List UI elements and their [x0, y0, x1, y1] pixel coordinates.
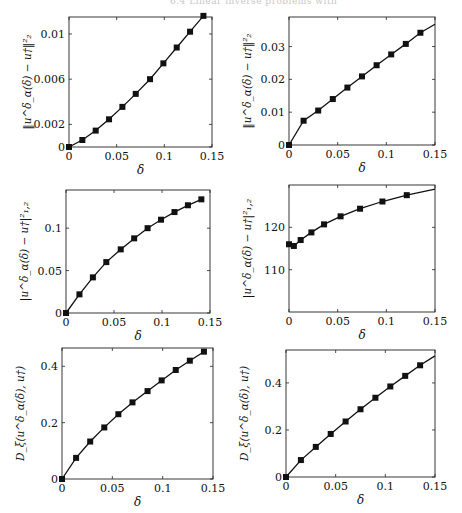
square-marker — [357, 206, 363, 212]
x-tick-label: 0.1 — [154, 482, 172, 495]
x-tick-label: 0.15 — [423, 480, 448, 493]
y-tick-label: 0.2 — [265, 424, 283, 437]
x-tick-label: 0.15 — [200, 150, 225, 163]
data-line — [66, 199, 201, 313]
square-marker — [145, 388, 151, 394]
square-marker — [298, 237, 304, 243]
square-marker — [283, 474, 289, 480]
y-tick-label: 0.4 — [41, 360, 59, 373]
square-marker — [173, 367, 179, 373]
subplot-p1: 00.050.10.1500.0020.0060.01δ‖u^δ_α(δ) − … — [21, 13, 224, 177]
square-marker — [343, 418, 349, 424]
data-line — [289, 24, 435, 145]
square-marker — [358, 406, 364, 412]
x-tick-label: 0.15 — [198, 316, 223, 329]
square-marker — [159, 377, 165, 383]
x-tick-label: 0.1 — [153, 316, 171, 329]
square-marker — [315, 108, 321, 114]
plot-frame — [69, 17, 212, 147]
x-tick-label: 0 — [286, 148, 293, 161]
square-marker — [103, 259, 109, 265]
square-marker — [90, 274, 96, 280]
x-tick-label: 0.05 — [323, 480, 348, 493]
x-axis-label: δ — [358, 328, 365, 342]
y-tick-label: 0 — [55, 307, 62, 320]
y-tick-label: 0.05 — [38, 265, 63, 278]
subplot-p2: 00.050.10.1500.010.020.03δ‖u^δ_α(δ) − u†… — [241, 17, 447, 175]
square-marker — [298, 457, 304, 463]
square-marker — [171, 209, 177, 215]
plot-frame — [289, 185, 435, 312]
square-marker — [372, 395, 378, 401]
figure-grid: 00.050.10.1500.0020.0060.01δ‖u^δ_α(δ) − … — [0, 0, 462, 513]
square-marker — [321, 221, 327, 227]
square-marker — [388, 51, 394, 57]
plot-frame — [66, 190, 210, 313]
subplot-p5: 00.050.10.1500.20.4δD_ξ(u^δ_α(δ), u†) — [14, 348, 225, 509]
square-marker — [131, 235, 137, 241]
square-marker — [145, 225, 151, 231]
square-marker — [374, 62, 380, 68]
data-line — [286, 356, 435, 477]
square-marker — [330, 96, 336, 102]
square-marker — [328, 431, 334, 437]
plot-frame — [286, 350, 435, 477]
square-marker — [106, 116, 112, 122]
y-tick-label: 0.006 — [34, 73, 66, 86]
square-marker — [119, 104, 125, 110]
square-marker — [101, 424, 107, 430]
square-marker — [73, 455, 79, 461]
x-tick-label: 0.15 — [423, 315, 448, 328]
plot-frame — [289, 17, 435, 145]
y-tick-label: 0 — [275, 471, 282, 484]
y-axis-label: |u^δ_α(δ) − u†|²₁,₂ — [18, 202, 32, 301]
square-marker — [147, 76, 153, 82]
square-marker — [198, 196, 204, 202]
square-marker — [301, 118, 307, 124]
square-marker — [417, 362, 423, 368]
square-marker — [66, 144, 72, 150]
square-marker — [187, 358, 193, 364]
y-tick-label: 0.01 — [261, 106, 286, 119]
data-line — [289, 189, 435, 246]
square-marker — [174, 45, 180, 51]
x-tick-label: 0.05 — [325, 148, 350, 161]
y-tick-label: 0.03 — [261, 41, 286, 54]
x-tick-label: 0 — [63, 316, 70, 329]
square-marker — [403, 41, 409, 47]
subplot-p4: 00.050.10.15110120δ|u^δ_α(δ) − u†|²₁,₂ — [241, 185, 447, 342]
x-tick-label: 0.15 — [423, 148, 448, 161]
square-marker — [359, 73, 365, 79]
y-axis-label: |u^δ_α(δ) − u†|²₁,₂ — [241, 199, 255, 298]
y-tick-label: 0.01 — [41, 28, 66, 41]
y-tick-label: 0.1 — [45, 222, 63, 235]
square-marker — [63, 310, 69, 316]
y-tick-label: 0.002 — [34, 118, 66, 131]
square-marker — [387, 383, 393, 389]
x-axis-label: δ — [358, 161, 365, 175]
subplot-p3: 00.050.10.1500.050.1δ|u^δ_α(δ) − u†|²₁,₂ — [18, 190, 222, 343]
x-tick-label: 0 — [286, 315, 293, 328]
x-tick-label: 0 — [283, 480, 290, 493]
y-axis-label: ‖u^δ_α(δ) − u†‖²₂ — [241, 33, 255, 128]
x-axis-label: δ — [137, 163, 144, 177]
data-line — [69, 16, 203, 147]
square-marker — [404, 192, 410, 198]
x-tick-label: 0 — [66, 150, 73, 163]
square-marker — [286, 142, 292, 148]
y-tick-label: 0 — [278, 139, 285, 152]
plot-frame — [62, 348, 213, 479]
x-tick-label: 0.1 — [156, 150, 174, 163]
square-marker — [338, 213, 344, 219]
square-marker — [59, 476, 65, 482]
y-tick-label: 120 — [264, 221, 285, 234]
square-marker — [133, 91, 139, 97]
data-line — [62, 352, 204, 479]
square-marker — [291, 243, 297, 249]
x-tick-label: 0.05 — [104, 150, 129, 163]
square-marker — [87, 439, 93, 445]
y-tick-label: 110 — [264, 264, 285, 277]
x-tick-label: 0.05 — [325, 315, 350, 328]
y-tick-label: 0.02 — [261, 73, 286, 86]
square-marker — [200, 13, 206, 19]
